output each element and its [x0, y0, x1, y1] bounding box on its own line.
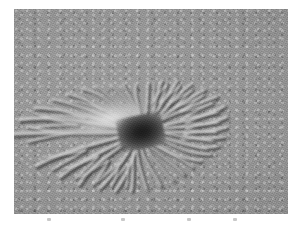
planetary-surface-image: [14, 9, 288, 214]
tick-mark-1: [47, 218, 51, 221]
scanline-band-layer: [14, 9, 288, 214]
tick-mark-2: [121, 218, 125, 221]
page-root: [0, 0, 301, 233]
faint-tick-marks: [14, 216, 288, 226]
tick-mark-3: [187, 218, 191, 221]
tick-mark-4: [233, 218, 237, 221]
